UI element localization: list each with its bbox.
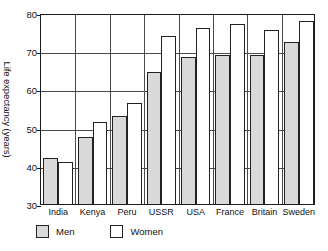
bar-kenya-women xyxy=(93,122,108,204)
gridline-x-5 xyxy=(213,15,214,204)
legend-label-women: Women xyxy=(130,226,163,237)
y-tick-label-30: 30 xyxy=(26,201,37,211)
y-tick-label-60: 60 xyxy=(26,86,37,96)
legend-label-men: Men xyxy=(56,226,74,237)
plot-area: 304050607080 IndiaKenyaPeruUSSRUSAFrance… xyxy=(40,14,315,205)
bar-peru-women xyxy=(127,103,142,204)
bar-india-women xyxy=(58,162,73,204)
x-tick-label-kenya: Kenya xyxy=(80,207,106,218)
y-tick-label-70: 70 xyxy=(26,48,37,58)
x-tick-label-sweden: Sweden xyxy=(283,207,316,218)
gridline-x-7 xyxy=(282,15,283,204)
y-tick-mark-80 xyxy=(37,15,41,16)
bar-britain-women xyxy=(264,30,279,204)
bar-usa-men xyxy=(181,57,196,204)
gridline-x-6 xyxy=(247,15,248,204)
y-tick-mark-70 xyxy=(37,53,41,54)
legend-swatch-women xyxy=(110,225,123,238)
x-tick-label-india: India xyxy=(48,207,68,218)
y-tick-mark-40 xyxy=(37,168,41,169)
y-tick-mark-50 xyxy=(37,130,41,131)
bar-peru-men xyxy=(112,116,127,204)
legend-swatch-men xyxy=(36,225,49,238)
bar-india-men xyxy=(43,158,58,204)
bar-france-women xyxy=(230,24,245,204)
x-tick-label-ussr: USSR xyxy=(149,207,174,218)
y-tick-mark-30 xyxy=(37,206,41,207)
bar-ussr-men xyxy=(147,72,162,204)
gridline-x-2 xyxy=(110,15,111,204)
bar-usa-women xyxy=(196,28,211,204)
chart-legend: MenWomen xyxy=(36,225,199,238)
legend-entry-men: Men xyxy=(36,225,74,238)
y-axis-title: Life expectancy (years) xyxy=(0,14,14,205)
bar-ussr-women xyxy=(161,36,176,204)
bar-sweden-men xyxy=(284,42,299,204)
bar-chart-figure: Life expectancy (years) 304050607080 Ind… xyxy=(0,0,328,251)
bar-britain-men xyxy=(250,55,265,204)
x-tick-label-britain: Britain xyxy=(252,207,278,218)
gridline-x-3 xyxy=(144,15,145,204)
bar-france-men xyxy=(215,55,230,204)
bar-kenya-men xyxy=(78,137,93,204)
x-tick-label-peru: Peru xyxy=(117,207,136,218)
gridline-x-1 xyxy=(75,15,76,204)
y-tick-label-40: 40 xyxy=(26,163,37,173)
bar-sweden-women xyxy=(299,21,314,204)
y-tick-label-80: 80 xyxy=(26,10,37,20)
x-tick-label-france: France xyxy=(216,207,244,218)
y-tick-label-50: 50 xyxy=(26,125,37,135)
y-tick-mark-60 xyxy=(37,91,41,92)
gridline-x-4 xyxy=(179,15,180,204)
x-tick-label-usa: USA xyxy=(186,207,205,218)
legend-entry-women: Women xyxy=(110,225,163,238)
